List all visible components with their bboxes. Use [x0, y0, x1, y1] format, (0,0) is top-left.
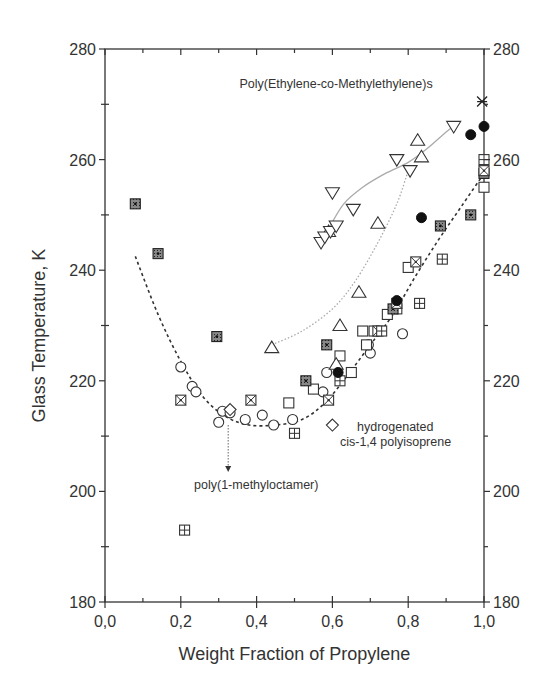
triangle-up-marker [371, 217, 385, 229]
arrow-head-icon [225, 466, 231, 472]
y-tick-label: 200 [69, 483, 96, 500]
x-tick-label: 0,6 [321, 613, 343, 630]
triangle-down-marker [346, 204, 360, 216]
y-axis-title: Glass Temperature, K [29, 249, 49, 423]
triangle-down-marker [403, 166, 417, 178]
annotation-text: cis-1,4 polyisoprene [340, 435, 451, 449]
circle-open-marker [398, 329, 408, 339]
x-tick-label: 0,0 [94, 613, 116, 630]
square-dot-marker [212, 332, 222, 342]
square-x-marker [411, 257, 421, 267]
square-x-marker [324, 395, 334, 405]
diamond-marker [326, 419, 338, 431]
circle-filled-marker [392, 296, 402, 306]
axis-ticks [99, 49, 490, 608]
y-tick-label-right: 240 [493, 262, 520, 279]
circle-open-marker [257, 410, 267, 420]
plot-frame [105, 49, 484, 602]
triangle-up-marker [411, 134, 425, 146]
plot-border [105, 49, 484, 602]
circle-open-marker [214, 417, 224, 427]
x-tick-label: 0,4 [245, 613, 267, 630]
x-tick-label: 0,2 [170, 613, 192, 630]
square-open-marker [362, 340, 372, 350]
square-dot-marker [153, 249, 163, 259]
y-tick-label-right: 180 [493, 594, 520, 611]
annotation-text: poly(1-methyloctamer) [194, 478, 318, 492]
y-tick-label-right: 200 [493, 483, 520, 500]
y-tick-label-right: 220 [493, 373, 520, 390]
triangle-down-marker [447, 121, 461, 133]
square-x-marker [479, 166, 489, 176]
circle-filled-marker [466, 130, 476, 140]
square-dot-marker [301, 376, 311, 386]
square-open-marker [284, 398, 294, 408]
circle-filled-marker [333, 368, 343, 378]
x-tick-label: 1,0 [473, 613, 495, 630]
triangle-up-marker [265, 341, 279, 353]
square-plus-marker [290, 428, 300, 438]
solid-fit-curve [329, 124, 458, 229]
square-open-marker [479, 182, 489, 192]
y-tick-label: 260 [69, 152, 96, 169]
triangle-up-marker [333, 319, 347, 331]
circle-open-marker [240, 415, 250, 425]
annotation-text: Poly(Ethylene-co-Methylethylene)s [240, 77, 433, 91]
circle-open-marker [176, 362, 186, 372]
y-tick-label: 280 [69, 41, 96, 58]
data-points [130, 97, 489, 536]
square-open-marker [346, 368, 356, 378]
circle-open-marker [269, 420, 279, 430]
triangle-up-marker [352, 286, 366, 298]
y-tick-label-right: 260 [493, 152, 520, 169]
x-axis-title: Weight Fraction of Propylene [179, 644, 411, 664]
star-marker [477, 97, 487, 107]
y-tick-label: 180 [69, 594, 96, 611]
square-dot-marker [435, 221, 445, 231]
square-dot-marker [130, 199, 140, 209]
circle-filled-marker [479, 121, 489, 131]
square-x-marker [176, 395, 186, 405]
x-tick-label: 0,8 [397, 613, 419, 630]
circle-open-marker [288, 415, 298, 425]
square-dot-marker [322, 340, 332, 350]
glass-temperature-chart: 0,00,20,40,60,81,01801802002002202202402… [0, 0, 550, 693]
square-plus-marker [180, 525, 190, 535]
annotation-text: hydrogenated [357, 420, 434, 434]
square-dot-marker [466, 210, 476, 220]
circle-filled-marker [416, 213, 426, 223]
circle-open-marker [191, 387, 201, 397]
square-plus-marker [415, 298, 425, 308]
square-x-marker [246, 395, 256, 405]
triangle-down-marker [325, 188, 339, 200]
square-plus-marker [377, 326, 387, 336]
square-open-marker [358, 326, 368, 336]
y-tick-label: 220 [69, 373, 96, 390]
triangle-down-marker [390, 155, 404, 167]
y-tick-label-right: 280 [493, 41, 520, 58]
y-tick-label: 240 [69, 262, 96, 279]
annotations: Poly(Ethylene-co-Methylethylene)shydroge… [194, 77, 451, 492]
square-plus-marker [437, 254, 447, 264]
